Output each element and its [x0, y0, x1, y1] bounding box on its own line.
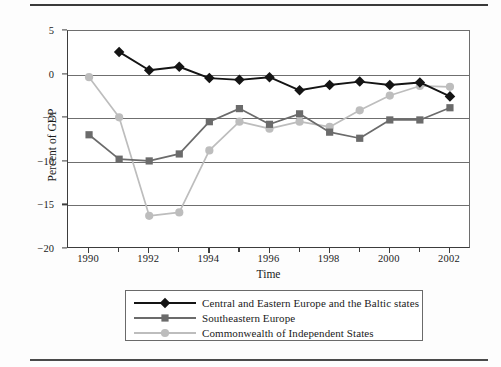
circle-marker	[356, 106, 364, 114]
x-tick-label: 2002	[438, 253, 460, 264]
x-tick-label: 1994	[197, 253, 219, 264]
plot-area	[67, 30, 470, 248]
series-diamond	[114, 47, 455, 102]
square-marker	[296, 110, 303, 117]
legend-marker	[158, 311, 172, 325]
x-tick-label: 1992	[137, 253, 159, 264]
legend-item[interactable]: Commonwealth of Independent States	[126, 325, 422, 340]
x-tick-label: 2000	[378, 253, 400, 264]
square-marker	[386, 116, 393, 123]
legend-swatch	[134, 326, 196, 339]
square-marker	[206, 118, 213, 125]
x-axis-label: Time	[67, 268, 470, 280]
series-circle	[85, 73, 454, 220]
chart-legend: Central and Eastern Europe and the Balti…	[125, 290, 423, 341]
diamond-marker	[385, 80, 396, 91]
y-tick-label: −20	[38, 243, 54, 254]
circle-marker	[115, 113, 123, 121]
circle-marker	[85, 73, 93, 81]
diamond-marker	[324, 80, 335, 91]
series-line	[89, 108, 450, 161]
diamond-marker	[294, 85, 305, 96]
square-marker	[176, 150, 183, 157]
x-tick-label: 1990	[77, 253, 99, 264]
gdp-line-chart-figure: Percent of GDP Time 50−5−10−15−20 199019…	[0, 0, 501, 367]
circle-marker	[205, 146, 213, 154]
circle-marker	[446, 83, 454, 91]
circle-marker	[175, 208, 183, 216]
diamond-marker	[354, 76, 365, 87]
circle-marker	[235, 118, 243, 126]
square-marker	[116, 156, 123, 163]
x-tick-label: 1998	[318, 253, 340, 264]
legend-marker	[158, 296, 172, 310]
circle-marker	[295, 118, 303, 126]
legend-item[interactable]: Central and Eastern Europe and the Balti…	[126, 295, 422, 310]
square-marker	[326, 129, 333, 136]
legend-label: Southeastern Europe	[202, 312, 295, 324]
y-axis-label: Percent of GDP	[46, 75, 58, 215]
legend-swatch	[134, 311, 196, 324]
y-tick-label: 0	[49, 68, 54, 79]
square-marker	[85, 131, 92, 138]
square-marker	[146, 157, 153, 164]
circle-marker	[386, 91, 394, 99]
legend-label: Central and Eastern Europe and the Balti…	[202, 297, 419, 309]
diamond-marker	[264, 72, 275, 83]
y-tick-label: −15	[38, 199, 54, 210]
y-tick-label: 5	[49, 25, 54, 36]
legend-marker	[158, 326, 172, 340]
diamond-marker	[234, 75, 245, 86]
diamond-marker	[144, 65, 155, 76]
diamond-marker	[160, 297, 171, 308]
square-marker	[266, 121, 273, 128]
legend-item[interactable]: Southeastern Europe	[126, 310, 422, 325]
legend-label: Commonwealth of Independent States	[202, 327, 374, 339]
y-tick-label: −5	[43, 112, 54, 123]
diamond-marker	[445, 91, 456, 102]
circle-marker	[145, 212, 153, 220]
square-marker	[416, 116, 423, 123]
series-square	[85, 104, 453, 164]
square-marker	[356, 135, 363, 142]
circle-marker	[161, 328, 169, 336]
square-marker	[236, 105, 243, 112]
square-marker	[161, 314, 168, 321]
series-line	[119, 52, 450, 96]
y-tick-label: −10	[38, 155, 54, 166]
x-tick-label: 1996	[258, 253, 280, 264]
series-line	[89, 77, 450, 216]
diamond-marker	[114, 47, 125, 58]
square-marker	[446, 104, 453, 111]
series-layer	[68, 31, 471, 249]
diamond-marker	[204, 73, 215, 84]
diamond-marker	[174, 61, 185, 72]
legend-swatch	[134, 296, 196, 309]
